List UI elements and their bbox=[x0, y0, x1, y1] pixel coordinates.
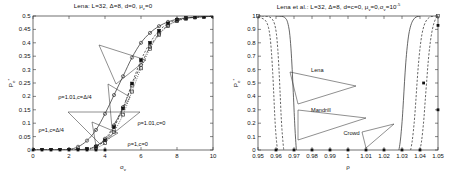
y-tick-label: 1 bbox=[252, 13, 256, 19]
y-tick-label: 0.9 bbox=[247, 26, 256, 32]
y-tick-label: 0.25 bbox=[19, 80, 31, 86]
x-tick-label: 2 bbox=[67, 153, 71, 159]
y-tick-label: 0.45 bbox=[19, 26, 31, 32]
annotation-label: ρ=1.01,c=0 bbox=[137, 120, 165, 126]
annotation-leader bbox=[362, 124, 394, 148]
data-marker bbox=[275, 149, 278, 152]
data-marker bbox=[140, 59, 143, 62]
y-tick-label: 0.8 bbox=[247, 40, 256, 46]
y-tick-label: 0.5 bbox=[247, 80, 256, 86]
data-marker bbox=[401, 149, 404, 152]
y-tick-label: 0.15 bbox=[19, 107, 31, 113]
data-marker bbox=[149, 41, 152, 44]
x-tick-label: 0.96 bbox=[270, 153, 282, 159]
annotation-label: ρ=1,c=0 bbox=[128, 141, 148, 147]
x-tick-label: 1.03 bbox=[396, 153, 408, 159]
series-crowd bbox=[258, 17, 277, 150]
y-tick-label: 0.1 bbox=[22, 120, 31, 126]
right-chart-panel: Lena et al.: L=32, Δ=8, d=c=0, μv=0,σv=1… bbox=[226, 0, 451, 175]
series-lena bbox=[276, 16, 296, 150]
data-marker bbox=[347, 149, 350, 152]
x-tick-label: 0.99 bbox=[324, 153, 336, 159]
series-lena bbox=[399, 16, 420, 150]
data-marker bbox=[422, 82, 425, 85]
data-marker bbox=[95, 149, 98, 152]
figure-container: Lena: L=32, Δ=8, d=0, μv=0 024681000.050… bbox=[0, 0, 451, 175]
y-tick-label: 0.4 bbox=[22, 40, 31, 46]
series-line bbox=[262, 16, 284, 150]
y-tick-label: 0.1 bbox=[247, 134, 256, 140]
x-tick-label: 1 bbox=[346, 153, 350, 159]
x-axis-label: σv bbox=[120, 163, 127, 172]
y-axis-label: Pe* bbox=[232, 79, 241, 88]
x-tick-label: 10 bbox=[210, 153, 217, 159]
data-marker bbox=[59, 149, 62, 152]
y-tick-label: 0.6 bbox=[247, 67, 256, 73]
x-tick-label: 6 bbox=[139, 153, 143, 159]
data-marker bbox=[437, 24, 440, 27]
svg-text:Pe*: Pe* bbox=[232, 79, 241, 88]
y-tick-label: 0.5 bbox=[22, 13, 31, 19]
data-marker bbox=[158, 29, 161, 32]
svg-text:Pe*: Pe* bbox=[7, 79, 16, 88]
annotation-label: Crowd bbox=[344, 130, 360, 136]
data-marker bbox=[383, 149, 386, 152]
series-line bbox=[399, 16, 420, 150]
data-marker bbox=[50, 149, 53, 152]
annotation-label: Lena bbox=[311, 67, 324, 73]
y-axis-label: Pe* bbox=[7, 79, 16, 88]
x-tick-label: 1.04 bbox=[414, 153, 426, 159]
x-tick-label: 8 bbox=[175, 153, 179, 159]
annotation-label: ρ=1.01,c=Δ/4 bbox=[58, 94, 91, 100]
data-marker bbox=[293, 149, 296, 152]
series-mandrill bbox=[262, 16, 284, 150]
y-tick-label: 0.7 bbox=[247, 53, 256, 59]
y-tick-label: 0.05 bbox=[19, 134, 31, 140]
x-tick-label: 1.01 bbox=[360, 153, 372, 159]
data-marker bbox=[365, 149, 368, 152]
data-marker bbox=[329, 149, 332, 152]
x-tick-label: 0.97 bbox=[288, 153, 300, 159]
y-tick-label: 0.3 bbox=[247, 107, 256, 113]
left-chart-panel: Lena: L=32, Δ=8, d=0, μv=0 024681000.050… bbox=[0, 0, 226, 175]
data-marker bbox=[41, 149, 44, 152]
data-marker bbox=[77, 149, 80, 152]
y-tick-label: 0.2 bbox=[22, 93, 31, 99]
x-tick-label: 1.02 bbox=[378, 153, 390, 159]
data-marker bbox=[131, 82, 134, 85]
data-marker bbox=[86, 149, 89, 152]
data-marker bbox=[104, 149, 107, 152]
y-tick-label: 0.4 bbox=[247, 93, 256, 99]
data-marker bbox=[68, 149, 71, 152]
data-marker bbox=[32, 149, 35, 152]
x-tick-label: 0.98 bbox=[306, 153, 318, 159]
x-tick-label: 0.95 bbox=[252, 153, 264, 159]
data-marker bbox=[122, 113, 125, 116]
data-marker bbox=[419, 149, 422, 152]
x-tick-label: 4 bbox=[103, 153, 107, 159]
right-chart-plot: 0.950.960.970.980.9911.011.021.031.041.0… bbox=[226, 0, 451, 175]
y-tick-label: 0.3 bbox=[22, 67, 31, 73]
annotation-leader bbox=[290, 72, 356, 104]
x-axis-label: ρ bbox=[346, 163, 350, 170]
x-tick-label: 1.05 bbox=[432, 153, 444, 159]
series-line bbox=[258, 17, 277, 150]
data-marker bbox=[311, 149, 314, 152]
y-tick-label: 0.35 bbox=[19, 53, 31, 59]
annotation-label: ρ=1,c=Δ/4 bbox=[38, 127, 64, 133]
left-chart-plot: 024681000.050.10.150.20.250.30.350.40.45… bbox=[0, 0, 226, 175]
x-tick-label: 0 bbox=[31, 153, 35, 159]
data-marker bbox=[437, 108, 440, 111]
y-tick-label: 0.2 bbox=[247, 120, 256, 126]
series-line bbox=[276, 16, 296, 150]
